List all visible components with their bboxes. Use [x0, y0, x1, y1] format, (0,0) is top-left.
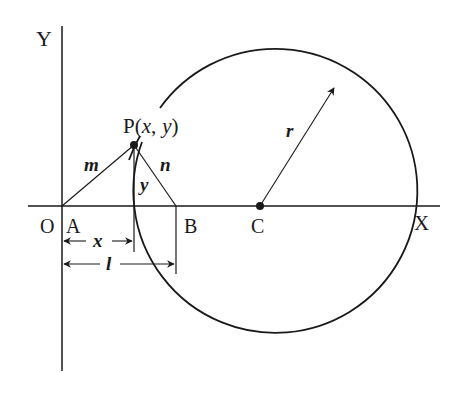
label-n: n	[160, 154, 171, 175]
label-l: l	[106, 253, 112, 274]
radius-r	[260, 88, 334, 206]
origin-label: O	[40, 215, 54, 237]
label-r: r	[286, 120, 294, 141]
point-C-label: C	[251, 215, 264, 237]
label-m: m	[84, 154, 99, 175]
point-B-label: B	[184, 215, 197, 237]
point-P-label: P(x,y)	[123, 114, 179, 138]
y-axis-label: Y	[36, 26, 52, 51]
x-axis-label: X	[414, 211, 429, 235]
geometry-figure: Y X O A B C P(x,y) m n y x l r	[0, 0, 464, 396]
label-x: x	[92, 230, 103, 251]
point-P	[130, 141, 138, 149]
circle	[133, 49, 417, 333]
diagram-canvas: Y X O A B C P(x,y) m n y x l r	[0, 0, 464, 396]
point-C	[256, 202, 264, 210]
label-y: y	[138, 174, 149, 195]
point-A-label: A	[66, 215, 81, 237]
